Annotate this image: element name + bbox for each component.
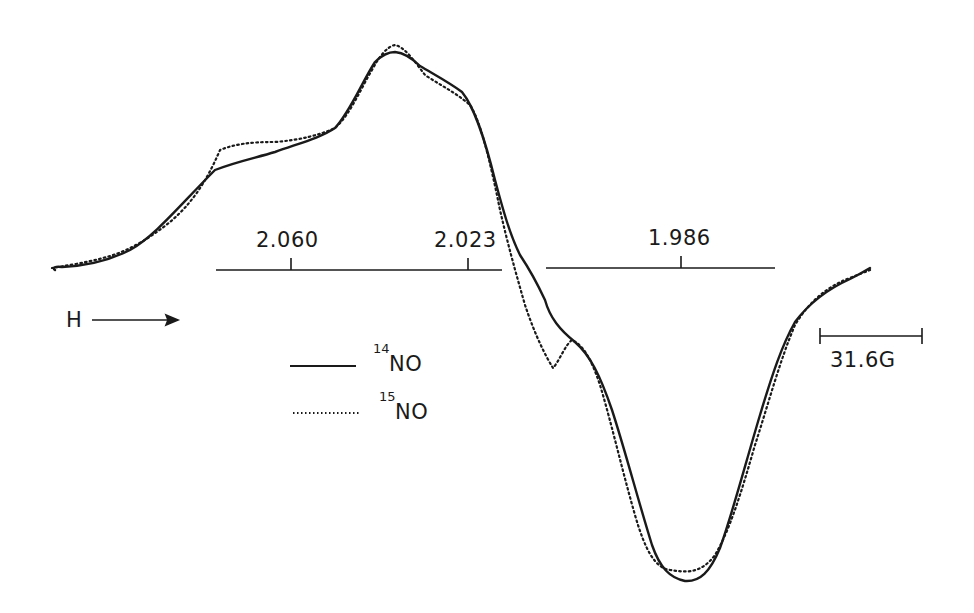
- series-15no-curve: [52, 45, 870, 571]
- legend-14no-superscript: 14: [373, 341, 390, 356]
- tick-label-2023: 2.023: [434, 228, 497, 252]
- scale-bar-label: 31.6G: [830, 348, 896, 372]
- field-label-h: H: [66, 308, 82, 332]
- tick-label-1986: 1.986: [648, 226, 711, 250]
- scale-bar: [820, 328, 922, 344]
- legend-14no-label: NO: [389, 352, 422, 376]
- legend-15no-label: NO: [395, 400, 428, 424]
- legend-15no-superscript: 15: [379, 389, 396, 404]
- epr-spectrum-chart: [0, 0, 974, 613]
- g-value-axis: [216, 256, 775, 270]
- field-direction-arrow: [92, 315, 178, 325]
- series-14no-curve: [54, 52, 870, 581]
- tick-label-2060: 2.060: [256, 228, 319, 252]
